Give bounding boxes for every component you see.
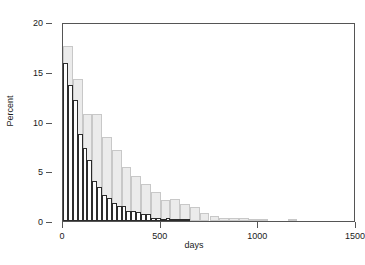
histogram-bar: [170, 199, 180, 221]
x-axis-tick: [355, 222, 356, 228]
x-axis-tick: [257, 222, 258, 228]
histogram-bar: [151, 192, 161, 221]
x-axis: 050010001500: [0, 0, 365, 265]
x-axis-tick: [160, 222, 161, 228]
x-axis-tick-label: 500: [152, 231, 167, 241]
histogram-bar: [185, 219, 190, 221]
histogram-bar: [229, 218, 239, 221]
histogram-bar: [258, 219, 268, 221]
x-axis-tick: [62, 222, 63, 228]
x-axis-tick-label: 0: [59, 231, 64, 241]
histogram-bar: [288, 219, 298, 221]
histogram-bar: [200, 213, 210, 221]
histogram-bar: [239, 218, 249, 221]
histogram-bar: [219, 218, 229, 221]
histogram-bar: [249, 219, 259, 221]
histogram-bar: [190, 207, 200, 221]
histogram-figure: 05101520 Percent 050010001500 days: [0, 0, 365, 265]
histogram-bar: [210, 216, 220, 221]
x-axis-title: days: [184, 240, 203, 250]
x-axis-tick-label: 1500: [345, 231, 365, 241]
x-axis-tick-label: 1000: [247, 231, 267, 241]
